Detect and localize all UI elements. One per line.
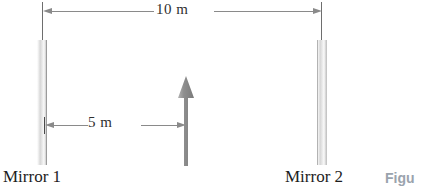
mirror-1-fade	[37, 143, 47, 165]
mirror-2-fade	[317, 143, 327, 165]
dimension-arrow-right-10m	[313, 8, 322, 14]
upward-arrow-icon	[176, 76, 196, 166]
caption-mirror-2: Mirror 2	[285, 167, 343, 187]
figure-tag-label: Figu	[385, 170, 415, 186]
mirror-1-surface	[37, 40, 47, 165]
dimension-line-10m-right-segment	[214, 11, 318, 12]
mirror-diagram: 10 m 5 m Mirror 1 Mirror 2 Figu	[0, 0, 429, 191]
dimension-line-5m-right-segment	[141, 125, 179, 126]
dimension-line-10m-left-segment	[48, 11, 154, 12]
dimension-label-10m: 10 m	[156, 1, 188, 18]
dimension-label-5m: 5 m	[88, 114, 112, 131]
caption-mirror-1: Mirror 1	[3, 167, 61, 187]
dimension-line-5m-left-segment	[50, 125, 88, 126]
mirror-2-surface	[317, 40, 327, 165]
